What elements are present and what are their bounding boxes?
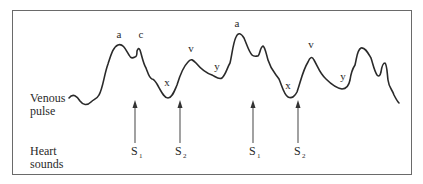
wave-label-a-2: a (235, 17, 240, 29)
venous-pulse-waveform (69, 34, 399, 105)
heart-sound-s2: S 2 (175, 144, 187, 160)
arrow-up-icon (296, 100, 301, 143)
heart-sound-s1: S 1 (131, 144, 143, 160)
heart-sound-s1-2: S 1 (249, 144, 261, 160)
heart-sound-base: S (249, 144, 256, 158)
wave-label-v-2: v (308, 38, 314, 50)
arrow-up-icon (133, 100, 138, 143)
wave-label-x-2: x (285, 79, 291, 91)
venous-pulse-diagram: a c x v y a x v y S 1 S 2 S 1 S 2 (0, 0, 423, 184)
wave-label-c: c (139, 28, 144, 40)
heart-sound-base: S (294, 144, 301, 158)
heart-sound-s2-2: S 2 (294, 144, 306, 160)
wave-label-a: a (117, 28, 122, 40)
heart-sound-base: S (131, 144, 138, 158)
wave-label-y-2: y (340, 70, 346, 82)
wave-label-x: x (164, 76, 170, 88)
heart-sound-subscript: 2 (183, 152, 187, 160)
wave-label-y: y (214, 60, 220, 72)
arrow-up-icon (178, 100, 183, 143)
heart-sound-subscript: 2 (302, 152, 306, 160)
wave-label-v: v (188, 42, 194, 54)
heart-sound-base: S (175, 144, 182, 158)
arrow-up-icon (251, 100, 256, 143)
heart-sound-subscript: 1 (257, 152, 261, 160)
heart-sound-subscript: 1 (139, 152, 143, 160)
